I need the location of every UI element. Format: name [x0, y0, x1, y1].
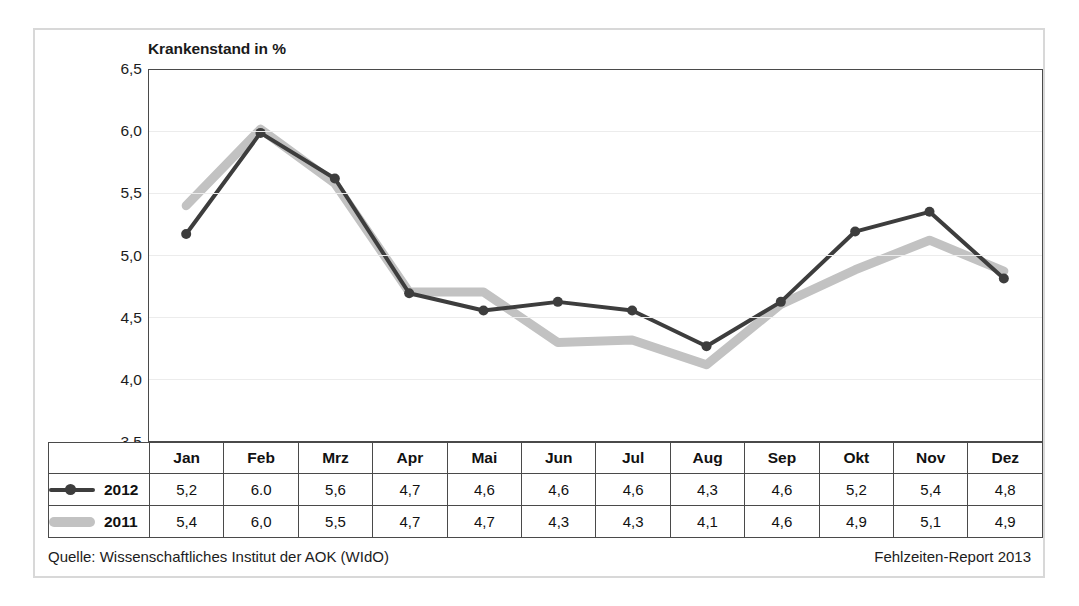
data-point-2012-Jun — [553, 297, 563, 307]
y-axis-tick-label: 4,0 — [96, 371, 142, 389]
table-header-month: Dez — [968, 443, 1043, 474]
table-cell-value: 5,1 — [894, 506, 968, 538]
data-point-2012-Mrz — [330, 174, 340, 184]
gridline — [149, 131, 1042, 132]
table-header-row: JanFebMrzAprMaiJunJulAugSepOktNovDez — [49, 443, 1043, 474]
table-cell-value: 4,1 — [670, 506, 744, 538]
table-cell-value: 6.0 — [224, 474, 298, 506]
y-axis: 6,56,05,55,04,54,03,5 — [92, 69, 142, 442]
y-axis-tick-label: 5,5 — [96, 184, 142, 202]
table-cell-value: 5,5 — [298, 506, 372, 538]
table-cell-value: 6,0 — [224, 506, 298, 538]
table-cell-value: 4,9 — [819, 506, 893, 538]
series-line-2012 — [186, 133, 1004, 346]
legend-cell-2011: 2011 — [49, 506, 150, 538]
data-point-2012-Nov — [925, 207, 935, 217]
data-point-2012-Mai — [479, 306, 489, 316]
gridline — [149, 317, 1042, 318]
plot-inner — [149, 70, 1042, 441]
data-point-2012-Okt — [850, 227, 860, 237]
y-axis-tick-label: 6,0 — [96, 122, 142, 140]
table-header-month: Mrz — [298, 443, 372, 474]
data-point-2012-Sep — [776, 297, 786, 307]
table-cell-value: 5,2 — [150, 474, 224, 506]
table-header-month: Nov — [894, 443, 968, 474]
chart-title: Krankenstand in % — [148, 40, 286, 58]
table-header-month: Aug — [670, 443, 744, 474]
table-cell-value: 4,8 — [968, 474, 1043, 506]
table-row: 20115,46,05,54,74,74,34,34,14,64,95,14,9 — [49, 506, 1043, 538]
legend-swatch-line — [49, 517, 95, 527]
table-header-month: Jul — [596, 443, 670, 474]
table-header-month: Mai — [447, 443, 521, 474]
table-cell-value: 4,7 — [373, 506, 447, 538]
table-cell-value: 4,3 — [522, 506, 596, 538]
data-point-2012-Dez — [999, 273, 1009, 283]
y-axis-tick-label: 4,5 — [96, 309, 142, 327]
table-cell-value: 4,6 — [447, 474, 521, 506]
y-axis-tick-label: 6,5 — [96, 60, 142, 78]
table-cell-value: 4,7 — [447, 506, 521, 538]
legend-swatch-icon — [49, 483, 95, 497]
table-row: 20125,26.05,64,74,64,64,64,34,65,25,44,8 — [49, 474, 1043, 506]
y-axis-tick-label: 5,0 — [96, 247, 142, 265]
legend-label: 2012 — [104, 481, 138, 499]
table-cell-value: 4,6 — [745, 474, 819, 506]
table-cell-value: 5,4 — [150, 506, 224, 538]
table-cell-value: 4,6 — [522, 474, 596, 506]
source-note: Quelle: Wissenschaftliches Institut der … — [48, 548, 389, 565]
legend-header-cell — [49, 443, 150, 474]
plot-area — [148, 69, 1043, 442]
report-note: Fehlzeiten-Report 2013 — [874, 548, 1031, 565]
data-table: JanFebMrzAprMaiJunJulAugSepOktNovDez 201… — [48, 442, 1043, 538]
table-body: 20125,26.05,64,74,64,64,64,34,65,25,44,8… — [49, 474, 1043, 538]
table-cell-value: 4,6 — [745, 506, 819, 538]
data-point-2012-Aug — [702, 341, 712, 351]
table-header-month: Apr — [373, 443, 447, 474]
figure-root: Krankenstand in % 6,56,05,55,04,54,03,5 … — [0, 0, 1079, 606]
table-head: JanFebMrzAprMaiJunJulAugSepOktNovDez — [49, 443, 1043, 474]
table-cell-value: 4,6 — [596, 474, 670, 506]
data-point-2012-Jan — [181, 229, 191, 239]
data-point-2012-Feb — [256, 128, 266, 138]
legend-swatch-icon — [49, 515, 95, 529]
gridline — [149, 193, 1042, 194]
table-cell-value: 4,3 — [670, 474, 744, 506]
table-cell-value: 5,6 — [298, 474, 372, 506]
table-header-month: Okt — [819, 443, 893, 474]
data-point-2012-Apr — [404, 288, 414, 298]
legend-label: 2011 — [104, 513, 138, 531]
table-cell-value: 4,7 — [373, 474, 447, 506]
table-header-month: Sep — [745, 443, 819, 474]
gridline — [149, 379, 1042, 380]
legend-cell-2012: 2012 — [49, 474, 150, 506]
gridline — [149, 255, 1042, 256]
table-cell-value: 4,9 — [968, 506, 1043, 538]
data-point-2012-Jul — [627, 306, 637, 316]
table-header-month: Feb — [224, 443, 298, 474]
table-cell-value: 4,3 — [596, 506, 670, 538]
table-header-month: Jun — [522, 443, 596, 474]
table-cell-value: 5,4 — [894, 474, 968, 506]
table-cell-value: 5,2 — [819, 474, 893, 506]
table-header-month: Jan — [150, 443, 224, 474]
legend-swatch-marker-icon — [65, 484, 76, 495]
